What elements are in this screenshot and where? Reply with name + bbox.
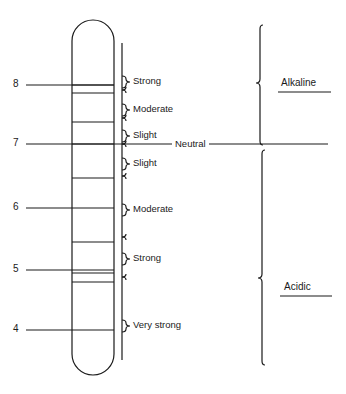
region-label-acidic: Acidic xyxy=(284,282,311,292)
band-notch-strong-acidic xyxy=(122,253,130,265)
band-label-moderate-alkaline: Moderate xyxy=(133,104,173,114)
axis-tick-6: 6 xyxy=(13,202,19,212)
band-label-very-strong-acidic: Very strong xyxy=(133,320,181,330)
band-notch-very-strong-acidic xyxy=(122,320,130,332)
band-notch-moderate-alkaline xyxy=(122,104,130,116)
acidic-region-bracket xyxy=(258,150,265,365)
ph-tube-outline xyxy=(72,20,114,375)
axis-tick-4: 4 xyxy=(13,324,19,334)
band-notch-strong-alkaline xyxy=(122,76,130,88)
region-label-alkaline: Alkaline xyxy=(281,78,316,88)
axis-tick-5: 5 xyxy=(13,264,19,274)
band-label-strong-alkaline: Strong xyxy=(133,76,161,86)
ph-scale-drawing xyxy=(0,0,346,394)
band-notch-slight-acidic xyxy=(122,158,130,170)
band-notch-slight-alkaline xyxy=(122,130,130,142)
band-label-moderate-acidic: Moderate xyxy=(133,204,173,214)
band-label-strong-acidic: Strong xyxy=(133,253,161,263)
axis-tick-8: 8 xyxy=(13,79,19,89)
band-notch-moderate-acidic xyxy=(122,204,130,216)
neutral-annotation: Neutral xyxy=(172,139,209,149)
band-label-slight-acidic: Slight xyxy=(133,158,157,168)
axis-tick-7: 7 xyxy=(13,138,19,148)
ph-scale-diagram: 8 7 6 5 4 Strong Moderate Slight Slight … xyxy=(0,0,346,394)
alkaline-region-bracket xyxy=(256,25,263,145)
band-label-slight-alkaline: Slight xyxy=(133,130,157,140)
